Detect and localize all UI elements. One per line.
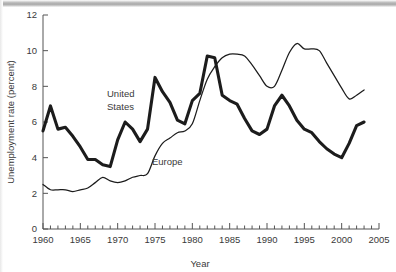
y-tick-label: 2 — [32, 188, 37, 199]
x-tick-label: 1985 — [219, 234, 240, 245]
x-tick-label: 1995 — [294, 234, 315, 245]
y-tick-label: 12 — [26, 9, 37, 20]
series-label-united-states-line2: States — [107, 101, 134, 112]
y-tick-label: 6 — [32, 116, 37, 127]
y-tick-label: 0 — [32, 223, 37, 234]
unemployment-rate-line-chart: 1960196519701975198019851990199520002005… — [0, 0, 396, 272]
x-axis-tick-labels: 1960196519701975198019851990199520002005 — [32, 234, 389, 245]
x-tick-label: 1965 — [70, 234, 91, 245]
y-tick-label: 8 — [32, 81, 37, 92]
x-tick-label: 1980 — [182, 234, 203, 245]
series-label-united-states-line1: United — [107, 88, 134, 99]
figure-container: 1960196519701975198019851990199520002005… — [0, 0, 396, 272]
chart-series — [43, 43, 364, 191]
y-tick-label: 4 — [32, 152, 37, 163]
x-axis-ticks — [43, 223, 379, 229]
y-axis-tick-labels: 024681012 — [26, 9, 37, 234]
x-tick-label: 1970 — [107, 234, 128, 245]
y-axis-title: Unemployment rate (percent) — [5, 60, 16, 184]
series-path-united-states — [43, 56, 364, 167]
x-tick-label: 1990 — [256, 234, 277, 245]
x-tick-label: 1975 — [144, 234, 165, 245]
series-label-europe: Europe — [152, 156, 183, 167]
series-path-europe — [43, 43, 364, 191]
x-tick-label: 2000 — [331, 234, 352, 245]
x-axis-title: Year — [190, 258, 209, 269]
x-tick-label: 2005 — [368, 234, 389, 245]
axis-spines — [43, 15, 379, 229]
x-tick-label: 1960 — [32, 234, 53, 245]
chart-axes — [43, 15, 379, 229]
y-tick-label: 10 — [26, 45, 37, 56]
